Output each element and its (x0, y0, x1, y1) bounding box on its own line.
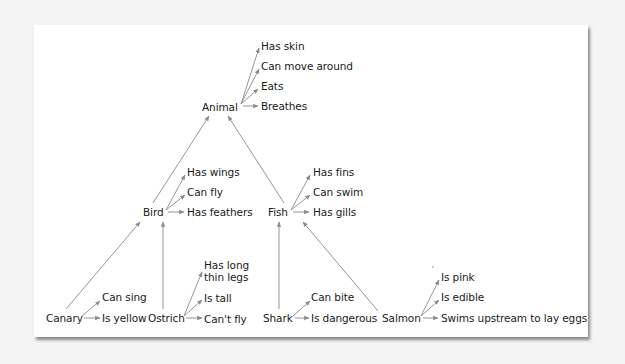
prop-has-feathers: Has feathers (187, 206, 253, 218)
edge-bird-wings (166, 175, 185, 210)
prop-breathes: Breathes (261, 100, 307, 112)
node-shark: Shark (263, 312, 293, 324)
edge-fish-swim (291, 195, 310, 210)
node-salmon: Salmon (382, 312, 421, 324)
prop-thin-legs: thin legs (204, 271, 248, 283)
edge-fish-fins (291, 175, 310, 210)
prop-has-fins: Has fins (313, 166, 354, 178)
edge-animal-can-move (241, 69, 259, 104)
prop-has-wings: Has wings (187, 166, 240, 178)
edge-salmon-edible (421, 300, 439, 316)
prop-is-edible: Is edible (441, 291, 484, 303)
prop-can-bite: Can bite (311, 291, 354, 303)
node-fish: Fish (268, 206, 288, 218)
node-canary: Canary (46, 312, 83, 324)
prop-is-yellow: Is yellow (102, 312, 147, 324)
edge-fish-animal (228, 116, 284, 203)
stray-dot (432, 266, 434, 268)
node-animal: Animal (202, 101, 238, 113)
prop-has-long: Has long (204, 259, 249, 271)
edge-ostrich-legs (184, 272, 202, 316)
edge-bird-fly (166, 195, 185, 210)
prop-is-tall: Is tall (204, 292, 232, 304)
edge-ostrich-tall (184, 300, 202, 316)
edge-canary-sing (82, 301, 100, 316)
node-ostrich: Ostrich (148, 312, 185, 324)
edges-layer (0, 0, 625, 364)
prop-can-sing: Can sing (102, 291, 147, 303)
prop-has-gills: Has gills (313, 206, 356, 218)
prop-has-skin: Has skin (261, 40, 304, 52)
prop-can-swim: Can swim (313, 186, 363, 198)
node-bird: Bird (143, 206, 164, 218)
prop-is-pink: Is pink (441, 271, 475, 283)
edge-shark-bite (293, 301, 310, 316)
prop-can-move-around: Can move around (261, 60, 353, 72)
prop-cant-fly: Can't fly (204, 313, 247, 325)
prop-eats: Eats (261, 80, 283, 92)
prop-swims-upstream: Swims upstream to lay eggs (441, 312, 587, 324)
prop-can-fly: Can fly (187, 186, 223, 198)
prop-is-dangerous: Is dangerous (311, 312, 377, 324)
edge-salmon-pink (421, 280, 439, 316)
